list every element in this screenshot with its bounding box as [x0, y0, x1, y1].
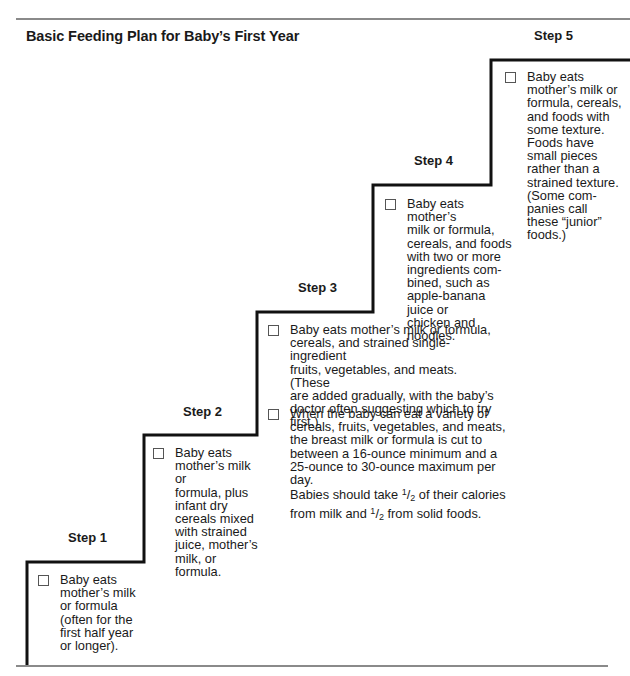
- step-4-label: Step 4: [414, 153, 453, 168]
- step-3-label: Step 3: [298, 280, 337, 295]
- step-5-item: Baby eats mother’s milk or formula, cere…: [505, 70, 630, 242]
- checkbox[interactable]: [385, 199, 396, 210]
- step-3-item-2: When the baby can eat a variety of cerea…: [268, 407, 508, 525]
- step-3-item-2-text: When the baby can eat a variety of cerea…: [268, 407, 508, 525]
- step-2-item: Baby eats mother’s milk or formula, plus…: [153, 446, 263, 578]
- fraction-half: 1/2: [370, 506, 384, 521]
- checkbox[interactable]: [153, 448, 164, 459]
- step-5-label: Step 5: [534, 28, 573, 43]
- step-5-item-text: Baby eats mother’s milk or formula, cere…: [505, 70, 630, 242]
- bottom-rule: [16, 665, 608, 667]
- step-4-item: Baby eats mother’s milk or formula, cere…: [385, 197, 515, 342]
- checkbox[interactable]: [38, 575, 49, 586]
- step-1-item: Baby eats mother’s milk or formula (ofte…: [38, 573, 148, 652]
- checkbox[interactable]: [268, 409, 279, 420]
- step-4-item-text: Baby eats mother’s milk or formula, cere…: [385, 197, 515, 342]
- step-1-label: Step 1: [68, 530, 107, 545]
- step-2-label: Step 2: [183, 404, 222, 419]
- fraction-half: 1/2: [402, 487, 416, 502]
- step-1-item-text: Baby eats mother’s milk or formula (ofte…: [38, 573, 148, 652]
- checkbox[interactable]: [505, 72, 516, 83]
- step-2-item-text: Baby eats mother’s milk or formula, plus…: [153, 446, 263, 578]
- checkbox[interactable]: [268, 325, 279, 336]
